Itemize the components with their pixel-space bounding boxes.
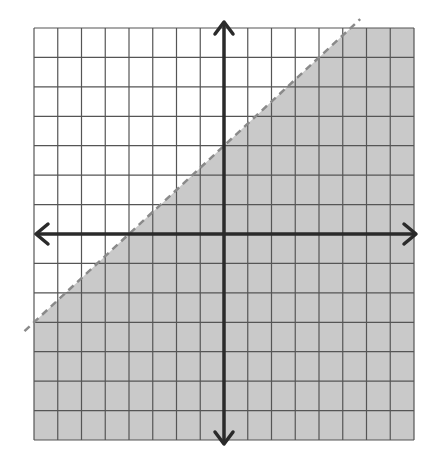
coordinate-plane xyxy=(0,0,435,460)
